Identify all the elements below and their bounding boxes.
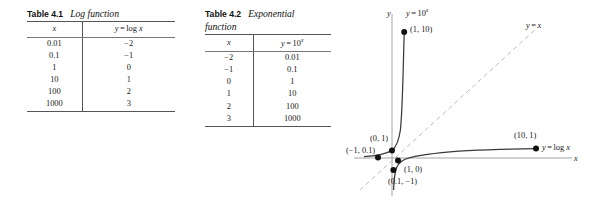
table-row: 2 100 (205, 101, 331, 113)
table-1-header-row: x y=log x (27, 21, 175, 37)
table-1-number: Table 4.1 (27, 9, 63, 19)
label-point-1-0: (1, 0) (404, 166, 422, 174)
table-1-cell-x: 1 (27, 62, 82, 74)
point-0-1 (389, 147, 395, 153)
table-2-cell-y: 100 (253, 101, 331, 113)
table-log-function: Table 4.1Log function x y=log x 0.01 −2 … (27, 8, 175, 112)
table-row: 3 1000 (205, 113, 331, 127)
table-1-caption: Table 4.1Log function (27, 8, 175, 21)
table-1-cell-y: −1 (82, 50, 175, 62)
table-2-cell-x: −2 (205, 52, 253, 65)
table-row: 1 0 (27, 62, 175, 74)
point-neg1-0.1 (375, 155, 381, 161)
table-row: 10 1 (27, 74, 175, 86)
table-1-cell-x: 0.1 (27, 50, 82, 62)
table-row: 1000 3 (27, 98, 175, 112)
identity-line-dashed (360, 27, 538, 190)
table-1-cell-x: 100 (27, 86, 82, 98)
table-row: 1 10 (205, 88, 331, 100)
y-axis-label: y (387, 10, 391, 18)
label-curve-logarithm: y=log x (542, 144, 570, 152)
table-2-caption: Table 4.2Exponential function (205, 8, 325, 34)
table-1-title: Log function (63, 8, 119, 19)
table-1-cell-y: 0 (82, 62, 175, 74)
table-row: 0.01 −2 (27, 37, 175, 50)
graph-canvas (340, 0, 602, 200)
table-2-cell-x: 3 (205, 113, 253, 127)
label-curve-exponential: y=10x (406, 8, 428, 18)
table-2-cell-x: 1 (205, 88, 253, 100)
point-0.1-neg1 (390, 167, 396, 173)
table-2-cell-x: 0 (205, 76, 253, 88)
table-row: 0.1 −1 (27, 50, 175, 62)
table-1-cell-y: 3 (82, 98, 175, 112)
table-1-cell-y: 1 (82, 74, 175, 86)
point-1-0 (395, 157, 401, 163)
x-axis-label: x (574, 155, 578, 163)
label-identity-line: y=x (526, 22, 541, 30)
table-1-cell-x: 10 (27, 74, 82, 86)
table-2-cell-y: 0.01 (253, 52, 331, 65)
label-point-1-10: (1, 10) (410, 26, 432, 34)
table-2-grid: x y=10x −2 0.01 −1 0.1 0 1 1 10 2 (205, 34, 331, 127)
table-1-cell-x: 1000 (27, 98, 82, 112)
point-1-10 (401, 29, 407, 35)
table-1-cell-x: 0.01 (27, 37, 82, 50)
figure-log-exp-graph: y x y=10x y=log x y=x (1, 10) (0, 1) (−1… (340, 0, 602, 200)
label-point-10-1: (10, 1) (514, 132, 536, 140)
table-row: 100 2 (27, 86, 175, 98)
table-2-cell-y: 10 (253, 88, 331, 100)
table-2-cell-y: 1000 (253, 113, 331, 127)
point-10-1 (533, 146, 539, 152)
table-row: −1 0.1 (205, 64, 331, 76)
table-2-number: Table 4.2 (205, 9, 241, 19)
table-2-cell-x: −1 (205, 64, 253, 76)
table-1-col-x: x (27, 21, 82, 37)
table-1-grid: x y=log x 0.01 −2 0.1 −1 1 0 10 1 100 (27, 21, 175, 112)
table-2-cell-y: 1 (253, 76, 331, 88)
table-exponential-function: Table 4.2Exponential function x y=10x −2… (205, 8, 331, 127)
table-1-cell-y: −2 (82, 37, 175, 50)
table-2-col-x: x (205, 34, 253, 51)
table-row: −2 0.01 (205, 52, 331, 65)
table-1-col-y: y=log x (82, 21, 175, 37)
label-point-0-1: (0, 1) (370, 135, 388, 143)
table-2-cell-y: 0.1 (253, 64, 331, 76)
label-point-0.1-neg1: (0.1, −1) (388, 178, 417, 186)
table-2-cell-x: 2 (205, 101, 253, 113)
label-point-neg1-0.1: (−1, 0.1) (346, 147, 375, 155)
table-2-header-row: x y=10x (205, 34, 331, 51)
table-row: 0 1 (205, 76, 331, 88)
table-1-cell-y: 2 (82, 86, 175, 98)
table-2-col-y: y=10x (253, 34, 331, 51)
